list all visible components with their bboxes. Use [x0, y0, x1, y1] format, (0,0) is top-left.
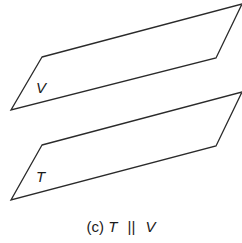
- caption-prefix: (c): [87, 218, 105, 235]
- plane-t-label: T: [36, 168, 47, 185]
- parallel-symbol: ||: [128, 218, 136, 235]
- figure-caption: (c) T || V: [0, 218, 242, 235]
- parallel-planes-diagram: V T: [0, 0, 242, 243]
- caption-left-plane: T: [108, 218, 117, 235]
- plane-v-label: V: [36, 79, 48, 96]
- caption-right-plane: V: [145, 218, 155, 235]
- plane-t: [11, 92, 242, 200]
